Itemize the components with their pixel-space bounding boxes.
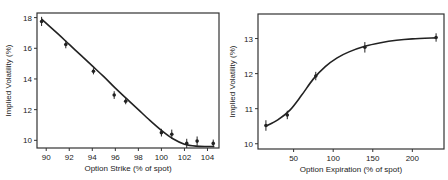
data-point [285, 113, 289, 117]
data-point [211, 142, 215, 146]
x-tick-label: 96 [111, 153, 120, 162]
data-point [185, 142, 189, 146]
x-tick-label: 98 [134, 153, 143, 162]
y-tick-label: 10 [244, 140, 253, 149]
data-point [264, 124, 268, 128]
x-tick-label: 104 [201, 153, 215, 162]
y-tick-label: 12 [23, 106, 32, 115]
plot-frame [37, 13, 219, 148]
x-tick-label: 200 [406, 154, 420, 163]
data-point [314, 74, 318, 78]
expiration-volatility-chart: 5010015020010111213Option Expiration (% … [224, 0, 448, 180]
data-point [170, 132, 174, 136]
strike-volatility-chart: 90929496981001021041012141618Option Stri… [0, 0, 224, 180]
x-axis-label: Option Strike (% of spot) [84, 164, 171, 173]
x-tick-label: 90 [42, 153, 51, 162]
x-tick-label: 100 [327, 154, 341, 163]
x-axis-ticks: 9092949698100102104 [42, 148, 215, 162]
x-axis-ticks: 50100150200 [289, 149, 419, 163]
y-tick-label: 13 [244, 35, 253, 44]
data-point [434, 36, 438, 40]
data-point [160, 131, 164, 135]
x-tick-label: 92 [65, 153, 74, 162]
y-tick-label: 14 [23, 75, 32, 84]
x-tick-label: 94 [88, 153, 97, 162]
y-axis-label: Implied Volatility (%) [228, 45, 237, 117]
x-axis-label: Option Expiration (% of spot) [300, 165, 403, 174]
fit-curve [266, 38, 436, 126]
x-tick-label: 50 [289, 154, 298, 163]
plot-frame [258, 14, 444, 149]
data-point [64, 43, 68, 47]
y-tick-label: 18 [23, 14, 32, 23]
data-point [195, 139, 199, 143]
data-point [363, 46, 367, 50]
fit-curve [42, 19, 215, 146]
y-tick-label: 11 [245, 105, 254, 114]
y-axis-label: Implied Volatility (%) [4, 44, 13, 116]
data-point [112, 93, 116, 97]
x-tick-label: 102 [178, 153, 192, 162]
y-tick-label: 10 [23, 136, 32, 145]
data-point [92, 69, 96, 73]
data-points [40, 17, 215, 148]
y-axis-ticks: 10111213 [244, 35, 258, 149]
data-point [40, 20, 44, 24]
x-tick-label: 150 [366, 154, 380, 163]
x-tick-label: 100 [155, 153, 169, 162]
y-tick-label: 12 [244, 70, 253, 79]
data-point [124, 99, 128, 103]
y-tick-label: 16 [23, 44, 32, 53]
data-points [264, 33, 438, 130]
y-axis-ticks: 1012141618 [23, 14, 37, 146]
